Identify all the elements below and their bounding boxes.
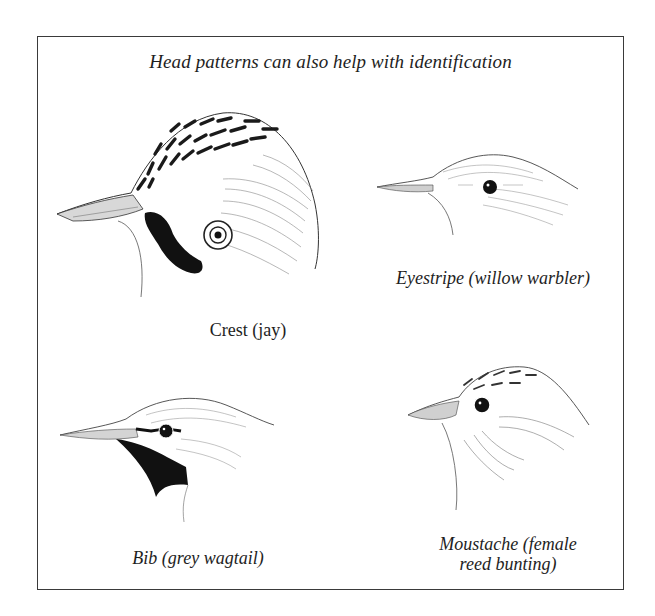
reed-bunting-head-illustration (404, 355, 594, 515)
willow-warbler-head-illustration (373, 147, 583, 237)
caption-moustache-line2: reed bunting) (408, 555, 608, 574)
figure-title: Head patterns can also help with identif… (38, 51, 623, 73)
caption-bib: Bib (grey wagtail) (98, 549, 298, 568)
illustration-frame: Head patterns can also help with identif… (37, 36, 624, 590)
caption-crest: Crest (jay) (178, 321, 318, 340)
caption-moustache-line1: Moustache (female (408, 535, 608, 554)
jay-head-illustration (53, 109, 323, 309)
grey-wagtail-head-illustration (56, 387, 286, 527)
caption-eyestripe: Eyestripe (willow warbler) (383, 269, 603, 288)
